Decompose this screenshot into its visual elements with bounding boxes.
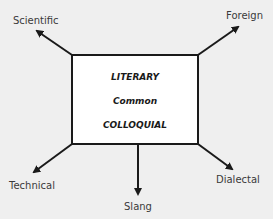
label-scientific: Scientific [13,15,59,27]
label-foreign: Foreign [226,10,263,22]
arrow-foreign [198,27,238,55]
arrow-dialectal [198,144,232,169]
label-technical: Technical [9,180,55,192]
arrow-scientific [37,31,72,55]
box-line-colloquial: COLLOQUIAL [72,120,198,131]
label-dialectal: Dialectal [216,174,260,186]
box-line-common: Common [72,96,198,107]
label-slang: Slang [124,201,152,213]
vocabulary-diagram: LITERARY Common COLLOQUIAL Scientific Fo… [0,0,273,219]
arrow-technical [34,144,72,172]
box-line-literary: LITERARY [72,72,198,83]
